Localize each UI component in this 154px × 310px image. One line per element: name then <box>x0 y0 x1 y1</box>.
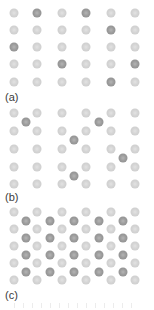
host-atom <box>10 208 19 217</box>
interstitial-atom <box>21 118 30 127</box>
dopant-atom <box>107 26 116 35</box>
host-atom <box>10 60 19 69</box>
interstitial-atom <box>21 250 30 259</box>
host-atom <box>10 145 19 154</box>
host-atom <box>58 9 67 18</box>
interstitial-atom <box>45 233 54 242</box>
host-atom <box>33 78 42 87</box>
interstitial-atom <box>119 267 128 276</box>
host-atom <box>82 225 91 234</box>
host-atom <box>131 127 140 136</box>
footer-marks <box>14 303 134 308</box>
host-atom <box>131 208 140 217</box>
host-atom <box>58 242 67 251</box>
host-atom <box>107 43 116 52</box>
interstitial-atom <box>94 267 103 276</box>
host-atom <box>82 242 91 251</box>
host-atom <box>82 43 91 52</box>
host-atom <box>107 9 116 18</box>
dopant-atom <box>131 60 140 69</box>
interstitial-atom <box>119 216 128 225</box>
host-atom <box>107 225 116 234</box>
host-atom <box>33 163 42 172</box>
host-atom <box>33 127 42 136</box>
interstitial-atom <box>119 250 128 259</box>
interstitial-atom <box>94 250 103 259</box>
host-atom <box>131 78 140 87</box>
interstitial-atom <box>70 136 79 145</box>
host-atom <box>33 109 42 118</box>
host-atom <box>33 60 42 69</box>
host-atom <box>33 26 42 35</box>
interstitial-atom <box>119 154 128 163</box>
host-atom <box>58 259 67 268</box>
host-atom <box>131 43 140 52</box>
interstitial-atom <box>70 250 79 259</box>
host-atom <box>58 145 67 154</box>
host-atom <box>10 78 19 87</box>
host-atom <box>33 225 42 234</box>
interstitial-atom <box>70 216 79 225</box>
host-atom <box>33 208 42 217</box>
host-atom <box>131 276 140 285</box>
interstitial-atom <box>45 267 54 276</box>
host-atom <box>131 242 140 251</box>
host-atom <box>33 276 42 285</box>
host-atom <box>82 145 91 154</box>
host-atom <box>58 208 67 217</box>
host-atom <box>107 163 116 172</box>
interstitial-atom <box>21 267 30 276</box>
host-atom <box>107 180 116 189</box>
host-atom <box>82 78 91 87</box>
host-atom <box>33 180 42 189</box>
host-atom <box>131 109 140 118</box>
host-atom <box>10 276 19 285</box>
host-atom <box>82 26 91 35</box>
interstitial-atom <box>45 216 54 225</box>
host-atom <box>58 26 67 35</box>
host-atom <box>131 180 140 189</box>
interstitial-atom <box>94 216 103 225</box>
host-atom <box>82 163 91 172</box>
host-atom <box>82 180 91 189</box>
host-atom <box>131 26 140 35</box>
interstitial-atom <box>94 233 103 242</box>
panel-label-b: (b) <box>5 192 18 203</box>
host-atom <box>82 60 91 69</box>
host-atom <box>10 259 19 268</box>
host-atom <box>131 145 140 154</box>
host-atom <box>107 127 116 136</box>
host-atom <box>33 242 42 251</box>
host-atom <box>107 242 116 251</box>
host-atom <box>107 208 116 217</box>
dopant-atom <box>33 9 42 18</box>
host-atom <box>58 109 67 118</box>
interstitial-atom <box>70 267 79 276</box>
interstitial-atom <box>70 233 79 242</box>
host-atom <box>107 109 116 118</box>
dopant-atom <box>58 60 67 69</box>
host-atom <box>131 259 140 268</box>
host-atom <box>131 225 140 234</box>
host-atom <box>107 145 116 154</box>
interstitial-atom <box>94 118 103 127</box>
host-atom <box>107 276 116 285</box>
host-atom <box>10 163 19 172</box>
host-atom <box>58 78 67 87</box>
interstitial-atom <box>45 250 54 259</box>
host-atom <box>33 145 42 154</box>
host-atom <box>10 9 19 18</box>
host-atom <box>33 43 42 52</box>
host-atom <box>10 242 19 251</box>
host-atom <box>82 109 91 118</box>
panel-label-c: (c) <box>5 290 18 301</box>
host-atom <box>107 259 116 268</box>
host-atom <box>58 180 67 189</box>
host-atom <box>58 276 67 285</box>
dopant-atom <box>10 43 19 52</box>
host-atom <box>33 259 42 268</box>
host-atom <box>58 127 67 136</box>
dopant-atom <box>107 78 116 87</box>
host-atom <box>10 127 19 136</box>
host-atom <box>131 163 140 172</box>
